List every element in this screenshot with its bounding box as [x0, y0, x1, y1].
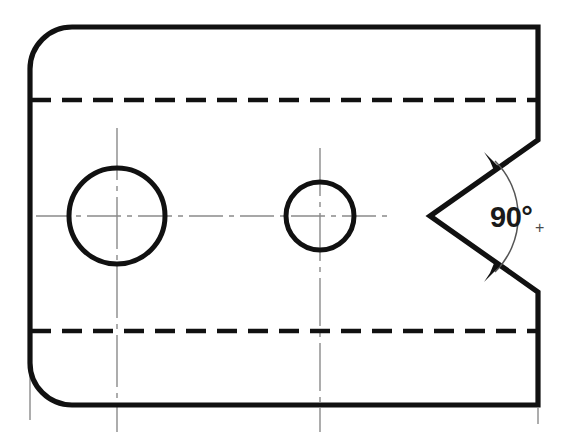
angle-label-group: 90° +: [490, 201, 544, 236]
angle-arrowhead-lower: [484, 261, 500, 282]
technical-drawing-canvas: 90° +: [0, 0, 562, 439]
angle-value-label: 90°: [490, 201, 532, 233]
angle-tolerance-symbol: +: [535, 219, 544, 236]
engineering-drawing-svg: 90° +: [0, 0, 562, 439]
centerlines-group: [30, 128, 538, 432]
